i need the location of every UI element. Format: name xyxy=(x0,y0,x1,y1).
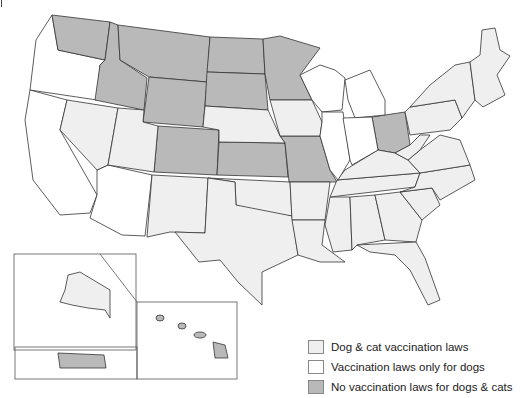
state-arkansas xyxy=(290,182,330,220)
legend: Dog & cat vaccination laws Vaccination l… xyxy=(308,338,513,398)
state-florida xyxy=(357,242,440,305)
state-kansas xyxy=(217,142,288,177)
legend-label: No vaccination laws for dogs & cats xyxy=(331,381,513,393)
state-colorado xyxy=(154,126,219,175)
legend-swatch xyxy=(308,380,324,394)
legend-item-dog-cat: Dog & cat vaccination laws xyxy=(308,338,513,356)
state-hawaii xyxy=(213,342,228,358)
state-new-mexico xyxy=(147,175,208,237)
state-michigan xyxy=(345,70,385,118)
territory-puerto-rico xyxy=(58,353,106,368)
state-south-dakota xyxy=(205,72,268,110)
legend-label: Dog & cat vaccination laws xyxy=(331,341,468,353)
state-wyoming xyxy=(143,77,207,127)
state-north-dakota xyxy=(207,37,265,74)
legend-swatch xyxy=(308,360,324,374)
state-mississippi xyxy=(325,197,352,252)
legend-item-dogs-only: Vaccination laws only for dogs xyxy=(308,358,513,376)
hawaii-inset xyxy=(137,302,237,379)
legend-swatch xyxy=(308,340,324,354)
legend-label: Vaccination laws only for dogs xyxy=(331,361,485,373)
state-arizona xyxy=(90,165,152,236)
legend-item-none: No vaccination laws for dogs & cats xyxy=(308,378,513,396)
state-new-england xyxy=(470,28,510,107)
state-alaska xyxy=(60,272,110,318)
